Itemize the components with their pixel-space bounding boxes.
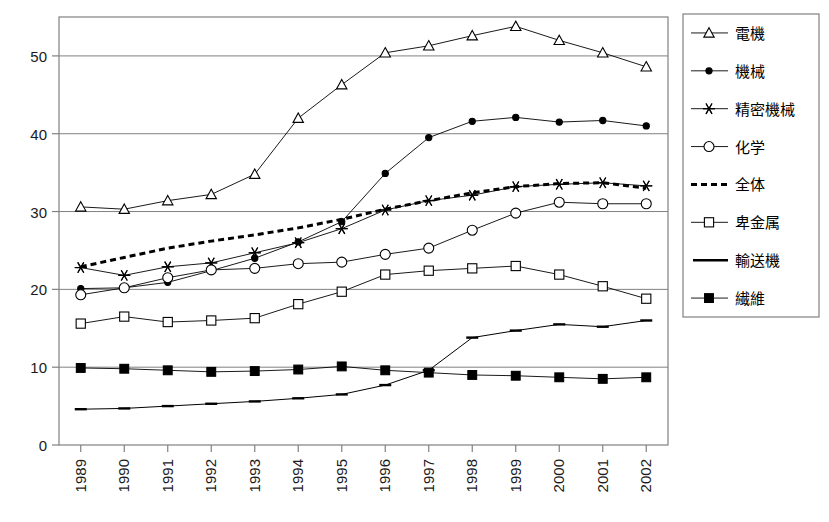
data-marker-square-filled (381, 366, 390, 375)
x-tick-label: 1989 (72, 459, 89, 492)
data-marker-circle-open (554, 197, 564, 207)
data-marker-circle-open (704, 142, 714, 152)
x-tick-label: 1990 (115, 459, 132, 492)
data-marker-square-open (120, 312, 129, 321)
data-marker-square-filled (337, 362, 346, 371)
x-tick-label: 2002 (637, 459, 654, 492)
x-tick-label: 1998 (463, 459, 480, 492)
data-marker-square-open (381, 270, 390, 279)
data-marker-circle-filled (469, 118, 475, 124)
legend-label: 精密機械 (735, 101, 795, 119)
data-marker-circle-open (293, 259, 303, 269)
chart-legend: 電機機械精密機械化学全体卑金属輸送機繊維 (683, 14, 819, 317)
data-marker-circle-filled (426, 135, 432, 141)
data-marker-square-open (76, 319, 85, 328)
x-tick-label: 1994 (289, 459, 306, 492)
x-tick-label: 1993 (246, 459, 263, 492)
data-marker-square-open (511, 261, 520, 270)
data-marker-circle-open (119, 283, 129, 293)
data-marker-square-filled (511, 371, 520, 380)
data-marker-square-open (337, 287, 346, 296)
x-tick-label: 1991 (159, 459, 176, 492)
legend-label: 化学 (735, 139, 765, 157)
chart-page: 01020304050 1989199019911992199319941995… (0, 0, 829, 522)
data-marker-circle-filled (382, 170, 388, 176)
data-marker-square-open (642, 294, 651, 303)
x-tick-label: 1999 (507, 459, 524, 492)
y-tick-label: 0 (39, 437, 47, 454)
data-marker-square-open (250, 314, 259, 323)
data-marker-square-filled (424, 368, 433, 377)
y-tick-label: 30 (30, 204, 47, 221)
legend-label: 繊維 (735, 290, 765, 308)
y-tick-label: 40 (30, 126, 47, 143)
x-tick-label: 2000 (550, 459, 567, 492)
data-marker-square-filled (468, 371, 477, 380)
data-marker-circle-open (511, 208, 521, 218)
legend-label: 機械 (735, 63, 765, 81)
data-marker-square-filled (76, 364, 85, 373)
y-tick-label: 10 (30, 359, 47, 376)
data-marker-square-open (598, 282, 607, 291)
data-marker-square-filled (120, 364, 129, 373)
y-tick-label: 20 (30, 281, 47, 298)
data-marker-circle-open (424, 243, 434, 253)
data-marker-square-filled (163, 366, 172, 375)
data-marker-square-filled (250, 367, 259, 376)
data-marker-circle-filled (556, 119, 562, 125)
x-tick-label: 1995 (333, 459, 350, 492)
x-tick-label: 1996 (376, 459, 393, 492)
data-marker-circle-open (163, 273, 173, 283)
data-marker-circle-open (337, 257, 347, 267)
x-tick-label: 1997 (420, 459, 437, 492)
data-marker-circle-filled (643, 123, 649, 129)
x-tick-label: 2001 (594, 459, 611, 492)
data-marker-square-open (163, 317, 172, 326)
data-marker-circle-filled (706, 68, 712, 74)
data-marker-square-open (555, 270, 564, 279)
data-marker-square-filled (294, 365, 303, 374)
data-marker-square-open (207, 316, 216, 325)
data-marker-circle-open (250, 263, 260, 273)
data-marker-circle-open (467, 225, 477, 235)
legend-label: 電機 (735, 25, 765, 43)
data-marker-square-filled (642, 373, 651, 382)
y-tick-label: 50 (30, 48, 47, 65)
data-marker-circle-open (206, 265, 216, 275)
legend-label: 輸送機 (735, 252, 780, 270)
data-marker-circle-open (641, 199, 651, 209)
data-marker-square-open (294, 300, 303, 309)
legend-box (683, 14, 819, 317)
data-marker-circle-open (76, 290, 86, 300)
line-chart: 01020304050 1989199019911992199319941995… (0, 0, 829, 522)
data-marker-square-open (704, 218, 713, 227)
x-tick-label: 1992 (202, 459, 219, 492)
legend-label: 全体 (735, 176, 765, 194)
data-marker-circle-filled (600, 117, 606, 123)
data-marker-square-filled (555, 373, 564, 382)
data-marker-square-open (424, 266, 433, 275)
data-marker-square-open (468, 264, 477, 273)
data-marker-square-filled (705, 294, 714, 303)
data-marker-circle-open (380, 249, 390, 259)
data-marker-square-filled (598, 374, 607, 383)
data-marker-circle-open (598, 199, 608, 209)
data-marker-circle-filled (513, 114, 519, 120)
legend-label: 卑金属 (735, 214, 780, 232)
data-marker-square-filled (207, 367, 216, 376)
